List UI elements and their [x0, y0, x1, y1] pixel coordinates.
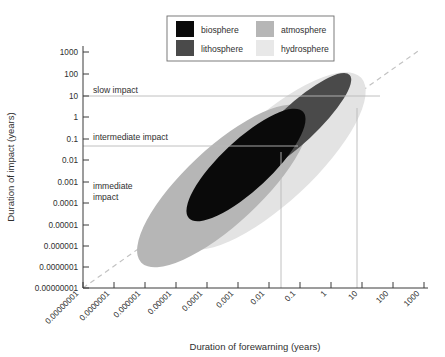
intermediate-impact-label: intermediate impact: [93, 132, 169, 142]
legend-label-biosphere: biosphere: [201, 25, 239, 35]
immediate-impact-label-line1: immediate: [93, 181, 133, 191]
legend-swatch-hydrosphere: [256, 40, 274, 56]
slow-impact-label: slow impact: [93, 85, 139, 95]
immediate-impact-label-line2: impact: [93, 192, 119, 202]
y-tick-label: 0.00001: [48, 221, 78, 230]
legend: biosphere lithosphere atmosphere hydrosp…: [167, 16, 334, 61]
y-tick-label: 0.01: [62, 156, 78, 165]
chart-canvas: slow impact intermediate impact immediat…: [0, 0, 445, 357]
y-axis-title: Duration of impact (years): [5, 112, 16, 221]
y-tick-label: 0.1: [67, 135, 79, 144]
y-tick-label: 10: [69, 92, 79, 101]
legend-swatch-biosphere: [176, 21, 194, 37]
y-tick-label: 0.0001: [53, 199, 78, 208]
legend-label-atmosphere: atmosphere: [281, 25, 327, 35]
legend-swatch-atmosphere: [256, 21, 274, 37]
y-tick-label: 0.0000001: [39, 263, 78, 272]
y-tick-label: 0.001: [58, 178, 79, 187]
legend-label-hydrosphere: hydrosphere: [281, 44, 329, 54]
legend-label-lithosphere: lithosphere: [201, 44, 243, 54]
y-tick-label: 1: [73, 113, 78, 122]
legend-swatch-lithosphere: [176, 40, 194, 56]
chart-figure: slow impact intermediate impact immediat…: [0, 0, 445, 357]
y-tick-label: 0.000001: [44, 242, 79, 251]
y-tick-label: 100: [64, 70, 78, 79]
y-tick-label: 1000: [60, 48, 79, 57]
x-axis-title: Duration of forewarning (years): [190, 341, 321, 352]
